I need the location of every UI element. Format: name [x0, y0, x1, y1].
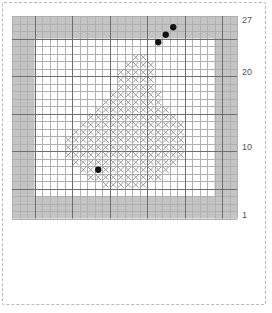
cross-stitch-chart: 27 20 10 1: [0, 0, 272, 313]
pattern-grid-canvas[interactable]: [12, 16, 238, 294]
chart-grid-area[interactable]: [12, 16, 238, 294]
row-label-10: 10: [242, 142, 252, 152]
row-label-20: 20: [242, 67, 252, 77]
row-label-1: 1: [242, 210, 247, 220]
row-label-27: 27: [242, 15, 252, 25]
row-label-axis: 27 20 10 1: [242, 16, 270, 294]
